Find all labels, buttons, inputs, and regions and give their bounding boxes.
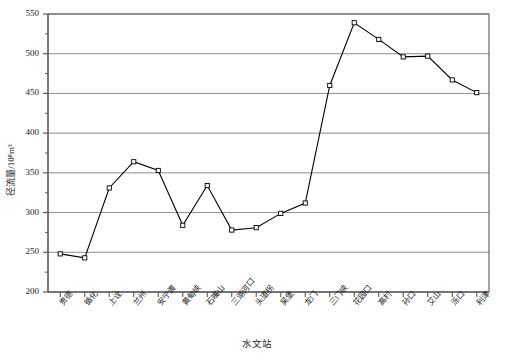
data-point-marker	[107, 186, 111, 190]
y-tick-label: 550	[9, 8, 39, 18]
data-point-marker	[303, 201, 307, 205]
data-point-marker	[328, 83, 332, 87]
data-point-marker	[205, 183, 209, 187]
runoff-line-chart: 径流量/10⁸m³ 水文站 200250300350400450500550 贵…	[0, 0, 514, 357]
data-point-marker	[352, 21, 356, 25]
y-tick-label: 400	[9, 127, 39, 137]
data-point-marker	[401, 55, 405, 59]
y-tick-label: 450	[9, 87, 39, 97]
plot-background	[48, 14, 489, 292]
data-point-marker	[230, 228, 234, 232]
data-point-marker	[58, 252, 62, 256]
data-point-marker	[279, 211, 283, 215]
data-point-marker	[450, 78, 454, 82]
data-point-marker	[377, 37, 381, 41]
data-point-marker	[426, 54, 430, 58]
data-point-marker	[156, 168, 160, 172]
y-tick-label: 350	[9, 167, 39, 177]
y-tick-label: 250	[9, 246, 39, 256]
data-point-marker	[83, 256, 87, 260]
data-point-marker	[181, 223, 185, 227]
data-point-marker	[475, 91, 479, 95]
y-tick-label: 300	[9, 207, 39, 217]
y-tick-label: 200	[9, 286, 39, 296]
data-point-marker	[132, 160, 136, 164]
data-point-marker	[254, 226, 258, 230]
y-tick-label: 500	[9, 48, 39, 58]
